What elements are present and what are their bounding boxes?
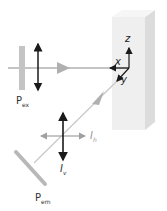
- y-axis-label: y: [121, 75, 127, 85]
- excitation-polarizer-label: Pex: [16, 96, 29, 108]
- z-axis-label: z: [125, 34, 130, 44]
- horizontal-intensity-label: Ih: [90, 131, 97, 143]
- vertical-intensity-label: Iv: [60, 164, 67, 176]
- sample-block: [112, 10, 155, 130]
- emission-beam: [34, 82, 116, 163]
- excitation-beam-arrowhead-icon: [57, 62, 70, 74]
- excitation-polarizer: [19, 46, 25, 90]
- x-axis-label: x: [115, 57, 121, 67]
- emission-beam-arrowhead-icon: [92, 91, 104, 105]
- emission-polarizer-label: Pem: [35, 193, 51, 205]
